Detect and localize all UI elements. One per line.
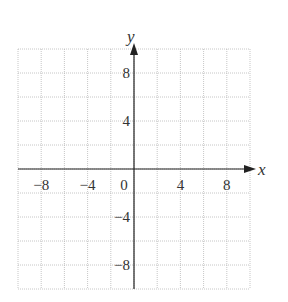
x-tick-label: −4 [80, 177, 96, 193]
x-tick-label: 4 [177, 177, 185, 193]
y-tick-label: −8 [114, 257, 130, 273]
x-tick-label: −8 [33, 177, 49, 193]
x-tick-label: 8 [223, 177, 231, 193]
y-axis-label: y [125, 27, 135, 46]
y-tick-label: −4 [114, 209, 130, 225]
coordinate-grid-chart: −8−404884−4−8 x y [0, 0, 288, 302]
x-axis-label: x [257, 160, 266, 179]
y-tick-label: 8 [123, 65, 131, 81]
y-tick-label: 4 [123, 113, 131, 129]
x-tick-label: 0 [120, 177, 128, 193]
